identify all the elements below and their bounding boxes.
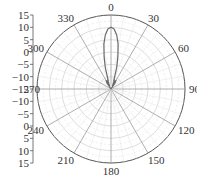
angle-tick-label: 150 — [148, 154, 165, 166]
radial-tick-label: 10 — [18, 145, 30, 157]
radial-tick-label: −5 — [17, 58, 29, 70]
polar-chart: 0306090120150180210240270300330 151050−5… — [0, 0, 197, 180]
radial-tick-label: 10 — [18, 21, 30, 33]
radial-tick-label: 15 — [18, 9, 30, 21]
angle-tick-label: 120 — [178, 124, 195, 136]
radial-tick-label: 5 — [24, 34, 30, 46]
angle-tick-label: 330 — [58, 12, 75, 24]
angle-tick-label: 180 — [103, 165, 120, 177]
angle-tick-label: 30 — [148, 12, 160, 24]
radial-tick-label: −5 — [17, 108, 29, 120]
angle-tick-label: 210 — [58, 154, 75, 166]
radial-tick-label: 0 — [24, 46, 30, 58]
radial-tick-label: −15 — [12, 83, 30, 95]
radial-tick-label: 15 — [18, 157, 30, 169]
angle-tick-label: 0 — [108, 1, 114, 13]
angle-tick-label: 60 — [178, 42, 190, 54]
radial-tick-label: 5 — [24, 132, 30, 144]
radial-tick-label: −10 — [12, 71, 30, 83]
radial-tick-label: −10 — [12, 95, 30, 107]
angle-tick-label: 90 — [189, 83, 197, 95]
radial-tick-label: 0 — [24, 120, 30, 132]
